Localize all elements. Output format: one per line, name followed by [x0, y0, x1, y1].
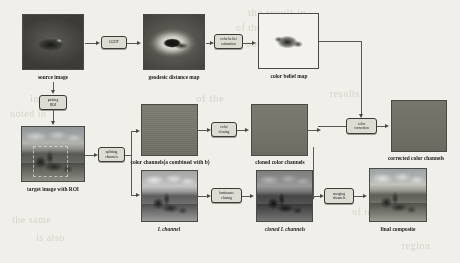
- arrowhead-cloned-to-correction: [317, 128, 321, 132]
- cloned-color-channels-caption: cloned color channels: [242, 159, 318, 165]
- process-color-correction[interactable]: color correction: [346, 118, 377, 134]
- geodesic-distance-map-thumbnail: [143, 14, 205, 70]
- arrowhead-source-to-pasting: [51, 90, 55, 94]
- cloned-color-channels-thumbnail: [251, 104, 308, 156]
- pipeline-diagram: source image GGDT geodesic distance map …: [0, 0, 460, 263]
- arrowhead-merging-to-final: [363, 194, 367, 198]
- process-splitting-channels[interactable]: splitting channels: [98, 147, 125, 162]
- roi-outline: [33, 146, 69, 176]
- process-color-cloning-label-2: cloning: [219, 130, 230, 134]
- final-composite-thumbnail: [369, 168, 427, 222]
- arrowhead-lumcloning-to-clonedl: [250, 194, 254, 198]
- connector-correctionbus-down: [313, 147, 314, 199]
- process-pasting-roi[interactable]: pasting ROI: [39, 95, 67, 110]
- connector-cbm-down: [361, 41, 362, 117]
- process-splitting-channels-label-2: channels: [105, 155, 118, 159]
- color-channels-caption: color channels(a combined with b): [128, 159, 212, 165]
- process-color-correction-label-2: correction: [354, 126, 369, 130]
- process-merging-channels[interactable]: merging channels: [324, 188, 354, 204]
- l-channel-thumbnail: [141, 170, 198, 222]
- arrowhead-correction-to-corrected: [385, 124, 389, 128]
- process-merging-channels-label-2: channels: [333, 196, 346, 200]
- corrected-color-channels-thumbnail: [391, 100, 447, 152]
- arrowhead-source-to-ggdt: [96, 41, 100, 45]
- geodesic-distance-map-caption: geodesic distance map: [127, 74, 221, 80]
- l-channel-caption: L channel: [140, 226, 198, 232]
- arrowhead-pasting-to-target: [51, 121, 55, 125]
- color-channels-thumbnail: [141, 104, 198, 156]
- process-color-cloning[interactable]: color cloning: [211, 122, 237, 137]
- arrowhead-splitting-to-color: [136, 129, 140, 133]
- process-ggdt-label: GGDT: [109, 40, 119, 44]
- process-luminance-cloning[interactable]: luminance cloning: [211, 188, 242, 203]
- color-belief-map-caption: color belief map: [243, 73, 335, 79]
- cloned-l-channels-caption: cloned L channels: [252, 226, 318, 232]
- process-color-belief-estimation[interactable]: color belief estimation: [214, 34, 243, 49]
- target-image-caption: target image with ROI: [4, 186, 102, 192]
- process-color-belief-estimation-label-2: estimation: [221, 42, 236, 46]
- source-image-caption: source image: [6, 74, 100, 80]
- connector-cbm-right: [319, 41, 361, 42]
- corrected-color-channels-caption: corrected color channels: [372, 155, 460, 161]
- process-luminance-cloning-label-2: cloning: [221, 196, 232, 200]
- arrowhead-cloning-to-cloned: [245, 128, 249, 132]
- arrowhead-cbe-to-cbm: [252, 41, 256, 45]
- color-belief-map-thumbnail: [258, 13, 319, 69]
- process-pasting-roi-label-2: ROI: [50, 103, 56, 107]
- target-image-thumbnail: [21, 126, 85, 182]
- process-ggdt[interactable]: GGDT: [101, 36, 127, 49]
- final-composite-caption: final composite: [364, 226, 432, 232]
- arrowhead-ggdt-to-gdm: [137, 41, 141, 45]
- source-image-thumbnail: [22, 14, 84, 70]
- cloned-l-channels-thumbnail: [256, 170, 313, 222]
- connector-into-correction: [318, 126, 346, 127]
- arrowhead-splitting-to-l: [136, 193, 140, 197]
